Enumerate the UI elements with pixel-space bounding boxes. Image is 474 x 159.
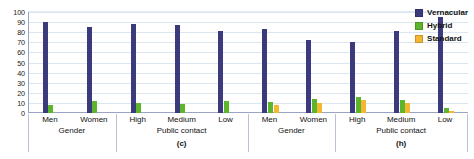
y-tick-label: 100 (13, 9, 25, 16)
bar-vernacular (43, 22, 48, 113)
bar-hybrid (444, 108, 449, 113)
legend-item[interactable]: Vernacular (415, 7, 468, 18)
y-axis-tick-labels: 1009080706050403020100 (0, 7, 27, 115)
y-tick-label: 60 (17, 49, 25, 56)
y-tick-label: 50 (17, 59, 25, 66)
axis-band-edge (467, 114, 468, 152)
bar-hybrid (400, 100, 405, 113)
legend-swatch-standard (415, 35, 423, 43)
bar-standard (274, 105, 279, 113)
bar-standard (405, 103, 410, 113)
y-tick-label: 40 (17, 69, 25, 76)
legend-label: Vernacular (427, 8, 468, 17)
y-tick-label: 10 (17, 99, 25, 106)
chart-legend: VernacularHybridStandard (415, 7, 468, 44)
legend-label: Hybrid (427, 21, 452, 30)
axis-group-separator (116, 114, 117, 152)
bar-vernacular (218, 31, 223, 113)
bar-hybrid (268, 102, 273, 113)
bar-hybrid (224, 101, 229, 113)
y-tick-label: 20 (17, 89, 25, 96)
bar-vernacular (394, 31, 399, 113)
group-label: Gender (241, 125, 341, 137)
bar-vernacular (306, 40, 311, 113)
y-tick-label: 90 (17, 19, 25, 26)
bar-hybrid (312, 99, 317, 113)
bar-hybrid (356, 97, 361, 113)
group-label: Public contact (351, 125, 451, 137)
bar-standard (361, 100, 366, 113)
bars-layer (29, 12, 468, 113)
bar-hybrid (92, 101, 97, 113)
legend-label: Standard (427, 34, 462, 43)
bar-vernacular (131, 24, 136, 113)
y-tick-label: 80 (17, 29, 25, 36)
bar-vernacular (262, 29, 267, 113)
axis-group-separator (335, 114, 336, 152)
panel-label: (c) (142, 138, 222, 150)
chart-plot-area: 1009080706050403020100 MenWomenHighMediu… (0, 0, 474, 159)
y-tick-label: 30 (17, 79, 25, 86)
axis-group-separator (248, 114, 249, 152)
bar-vernacular (175, 25, 180, 113)
y-tick-label: 70 (17, 39, 25, 46)
axis-band-edge (28, 114, 29, 152)
legend-item[interactable]: Hybrid (415, 20, 468, 31)
bar-hybrid (48, 105, 53, 113)
panel-label: (h) (361, 138, 441, 150)
bar-vernacular (87, 27, 92, 113)
bar-hybrid (136, 103, 141, 113)
group-label: Public contact (132, 125, 232, 137)
legend-item[interactable]: Standard (415, 33, 468, 44)
group-label: Gender (22, 125, 122, 137)
legend-swatch-vernacular (415, 9, 423, 17)
chart-root: 1009080706050403020100 MenWomenHighMediu… (0, 0, 474, 159)
bar-standard (449, 111, 454, 113)
bar-vernacular (350, 42, 355, 113)
bar-hybrid (180, 104, 185, 113)
legend-swatch-hybrid (415, 22, 423, 30)
bar-standard (317, 103, 322, 113)
